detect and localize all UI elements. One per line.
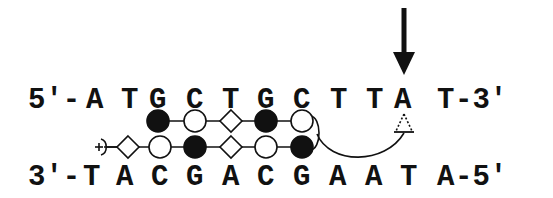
filled-circle-icon: [255, 110, 277, 132]
bottom-base-6: C: [257, 161, 274, 194]
bottom-base-7: G: [293, 161, 310, 194]
open-circle-icon: [255, 136, 277, 158]
bottom-base-1: T: [83, 161, 100, 194]
top-base-11: T: [437, 84, 454, 117]
open-diamond-icon: [117, 136, 139, 158]
top-base-1: A: [86, 84, 104, 117]
bottom-strand-suffix: -5': [455, 161, 507, 194]
open-diamond-icon: [220, 136, 242, 158]
bottom-base-10: T: [400, 161, 417, 194]
top-base-10: A: [394, 84, 412, 117]
plus-tail-icon: [95, 139, 117, 155]
bottom-base-11: A: [437, 161, 455, 194]
filled-circle-icon: [147, 110, 169, 132]
open-circle-icon: [149, 136, 171, 158]
open-circle-icon: [291, 110, 313, 132]
bottom-strand-prefix: 3'-: [28, 161, 80, 194]
bottom-base-4: G: [186, 161, 203, 194]
top-base-2: T: [121, 84, 138, 117]
top-strand-suffix: -3': [455, 84, 507, 117]
bottom-base-2: A: [116, 161, 134, 194]
bottom-base-8: A: [329, 161, 347, 194]
filled-circle-icon: [291, 136, 313, 158]
bottom-strand: 3'- T A C G A C G A A T A -5': [28, 161, 507, 194]
bottom-base-3: C: [151, 161, 168, 194]
top-strand-prefix: 5'-: [28, 84, 80, 117]
top-base-8: T: [330, 84, 347, 117]
bottom-base-5: A: [222, 161, 240, 194]
dna-polyamide-diagram: 5'- A T G C T G C T T A T -3' 3'- T A C …: [0, 0, 553, 198]
cleavage-arrow-icon: [393, 8, 415, 75]
bottom-base-9: A: [365, 161, 383, 194]
filled-circle-icon: [184, 136, 206, 158]
open-circle-icon: [184, 110, 206, 132]
top-base-9: T: [366, 84, 383, 117]
